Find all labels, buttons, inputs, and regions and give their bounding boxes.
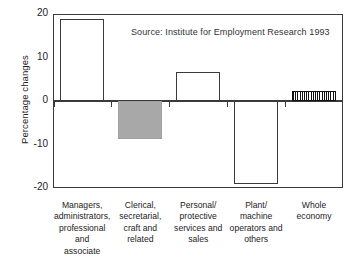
y-tick-label-4: -20 <box>0 181 48 192</box>
category-label-line: operators and <box>228 223 284 234</box>
category-label-line: machine <box>228 211 284 222</box>
bar-0 <box>60 19 104 101</box>
category-label-line: secretarial, <box>112 211 168 222</box>
boundary-tick-3 <box>285 101 286 107</box>
category-label-4: Wholeeconomy <box>285 200 343 270</box>
boundary-tick-start <box>54 101 55 107</box>
bar-2 <box>176 72 220 101</box>
category-label-line: sales <box>170 234 226 245</box>
category-label-line: craft and <box>112 223 168 234</box>
category-label-3: Plant/machineoperators andothers <box>227 200 285 270</box>
category-label-1: Clerical,secretarial,craft andrelated <box>111 200 169 270</box>
category-label-line: Clerical, <box>112 200 168 211</box>
category-label-line: associate <box>54 246 110 257</box>
category-label-line: Personal/ <box>170 200 226 211</box>
y-tick-label-2: 0 <box>0 94 48 105</box>
boundary-tick-2 <box>227 101 228 107</box>
boundary-tick-0 <box>111 101 112 107</box>
category-label-line: Plant/ <box>228 200 284 211</box>
bar-1 <box>118 101 162 139</box>
category-label-line: economy <box>286 211 342 222</box>
category-label-line: protective <box>170 211 226 222</box>
y-tick-label-3: -10 <box>0 138 48 149</box>
y-tick-label-0: 20 <box>0 7 48 18</box>
boundary-tick-1 <box>169 101 170 107</box>
category-label-line: professional and <box>54 223 110 246</box>
category-label-line: Managers, <box>54 200 110 211</box>
category-label-2: Personal/protectiveservices andsales <box>169 200 227 270</box>
category-label-line: related <box>112 234 168 245</box>
category-label-line: administrators, <box>54 211 110 222</box>
x-axis-category-labels: Managers,administrators,professional and… <box>53 200 343 270</box>
category-label-line: Whole <box>286 200 342 211</box>
source-annotation: Source: Institute for Employment Researc… <box>131 27 330 37</box>
chart-figure: Percentage changes 20100-10-20 Source: I… <box>0 0 354 273</box>
category-label-0: Managers,administrators,professional and… <box>53 200 111 270</box>
category-label-line: others <box>228 234 284 245</box>
bar-3 <box>234 101 278 184</box>
bar-4 <box>292 91 336 101</box>
category-label-line: services and <box>170 223 226 234</box>
y-tick-label-1: 10 <box>0 51 48 62</box>
